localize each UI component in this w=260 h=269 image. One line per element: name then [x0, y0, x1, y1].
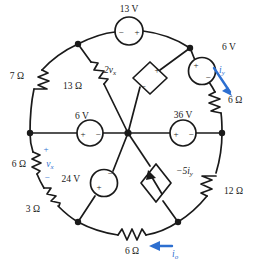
source-36v-minus: −	[188, 129, 193, 139]
label-2vx: 2vx	[104, 65, 117, 77]
wire-spoke-24v-upper	[113, 133, 128, 171]
node-bottom-right	[175, 219, 181, 225]
resistor-6ohm-left-zigzag	[32, 152, 41, 174]
circuit-diagram: − + + − + − + − − + + −	[0, 0, 260, 269]
wire-6ohm-to-bottomright	[146, 222, 178, 235]
resistor-6ohm-right-zigzag	[209, 92, 221, 113]
source-6v-left-minus: −	[95, 129, 100, 139]
label-13ohm: 13 Ω	[63, 81, 82, 91]
node-left	[27, 130, 33, 136]
wire-spoke-2vx-upper	[160, 48, 190, 70]
current-arrow-io	[149, 241, 172, 251]
dep-source-2vx-minus: −	[140, 81, 145, 91]
wire-spoke-5iy-upper	[128, 133, 150, 166]
node-top-left	[75, 41, 81, 47]
label-7ohm: 7 Ω	[10, 71, 24, 81]
wire-bottomright-to-12ohm	[178, 196, 207, 222]
label-24v: 24 V	[61, 174, 80, 184]
resistor-3ohm-zigzag	[44, 188, 60, 206]
wire-topleft-to-7ohm	[42, 44, 78, 70]
resistor-6ohm-bottom-zigzag	[118, 229, 146, 240]
label-13v: 13 V	[120, 4, 139, 14]
node-right	[219, 130, 225, 136]
label-vx-group: + vx −	[43, 144, 54, 182]
source-24v-circle	[91, 170, 118, 197]
label-6ohm-bottom: 6 Ω	[125, 246, 139, 256]
source-6v-topright-minus: −	[205, 72, 210, 82]
dep-source-2vx-plus: +	[154, 65, 159, 75]
dep-source-2vx: + −	[133, 62, 167, 94]
label-vx: vx	[46, 159, 54, 171]
node-bottom-left	[75, 219, 81, 225]
dep-source-5iy	[141, 164, 171, 202]
source-24v-plus: +	[96, 182, 101, 192]
label-6v-left: 6 V	[75, 111, 89, 121]
resistor-7ohm-zigzag	[34, 70, 49, 89]
wire-6ohm-to-3ohm	[37, 174, 44, 188]
wire-spoke-13ohm-lower	[104, 84, 128, 133]
label-6ohm-left: 6 Ω	[12, 159, 26, 169]
source-13v-plus: +	[134, 27, 139, 37]
label-36v: 36 V	[174, 110, 193, 120]
voltage-source-symbols: − + + − + − + − − +	[77, 17, 216, 197]
label-3ohm: 3 Ω	[26, 204, 40, 214]
wire-7ohm-to-leftnode	[30, 89, 34, 133]
wire-spoke-2vx-lower	[128, 87, 140, 133]
source-24v-minus: −	[107, 168, 112, 178]
wire-13v-to-topright	[143, 31, 190, 48]
label-6ohm-right: 6 Ω	[228, 95, 242, 105]
wire-spoke-5iy-lower	[163, 201, 178, 222]
wire-topleft-to-13v	[78, 32, 115, 44]
dep-source-2vx-diamond	[133, 62, 167, 94]
label-6v-topright: 6 V	[222, 42, 236, 52]
source-13v-minus: −	[118, 27, 123, 37]
wire-bottomleft-to-6ohm	[78, 222, 118, 235]
wire-6ohm-to-6v	[209, 82, 215, 92]
label-vx-minus: −	[44, 172, 49, 182]
label-io: io	[172, 249, 179, 261]
dependent-source-symbols: + −	[133, 62, 171, 202]
resistor-symbols	[32, 62, 221, 240]
wire-3ohm-to-bottomleft	[58, 206, 78, 222]
resistor-12ohm-zigzag	[201, 176, 216, 196]
label-12ohm: 12 Ω	[224, 186, 243, 196]
label-5iy: −5iy	[176, 166, 194, 178]
source-6v-left-plus: +	[80, 129, 85, 139]
node-center	[124, 129, 131, 136]
node-top-right	[187, 45, 193, 51]
source-36v-plus: +	[173, 129, 178, 139]
wire-12ohm-to-rightnode	[216, 133, 222, 173]
wire-spoke-13ohm-upper	[78, 44, 91, 62]
circuit-svg: − + + − + − + − − + + −	[0, 0, 260, 269]
source-6v-topright-plus: +	[193, 60, 198, 70]
wire-spoke-24v-lower	[78, 196, 95, 222]
label-vx-plus: +	[43, 144, 48, 154]
